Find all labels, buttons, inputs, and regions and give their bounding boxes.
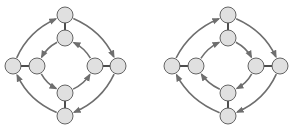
node-top-outer	[220, 7, 236, 23]
node-top-inner	[57, 30, 73, 46]
node-right-inner	[87, 58, 103, 74]
inner-ring-arrow	[42, 42, 57, 57]
node-bottom-inner	[220, 85, 236, 101]
outer-ring-arrow	[73, 19, 114, 57]
inner-ring-arrow	[202, 74, 220, 89]
node-top-outer	[57, 7, 73, 23]
node-right-outer	[272, 58, 288, 74]
inner-ring-arrow	[41, 74, 56, 89]
node-right-inner	[248, 58, 264, 74]
inner-ring-arrow	[201, 42, 219, 58]
outer-ring-arrow	[177, 75, 220, 113]
outer-ring-arrow	[237, 74, 276, 112]
node-top-inner	[220, 30, 236, 46]
node-left-inner	[29, 58, 45, 74]
node-left-outer	[5, 58, 21, 74]
inner-ring-arrow	[237, 74, 252, 89]
node-left-inner	[188, 58, 204, 74]
outer-ring-arrow	[74, 74, 114, 112]
inner-ring-arrow	[236, 42, 251, 57]
node-bottom-outer	[57, 108, 73, 124]
diagram-right	[164, 7, 288, 124]
outer-ring-arrow	[17, 75, 57, 112]
diagram-left	[5, 7, 126, 124]
inner-ring-arrow	[73, 75, 90, 90]
outer-ring-arrow	[236, 19, 276, 57]
diagram-canvas	[0, 0, 291, 130]
outer-ring-arrow	[17, 19, 56, 58]
node-left-outer	[164, 58, 180, 74]
node-right-outer	[110, 58, 126, 74]
outer-ring-arrow	[176, 19, 219, 58]
inner-ring-arrow	[74, 43, 91, 59]
node-bottom-outer	[220, 108, 236, 124]
node-bottom-inner	[57, 85, 73, 101]
two-ring-graphs	[0, 0, 291, 130]
